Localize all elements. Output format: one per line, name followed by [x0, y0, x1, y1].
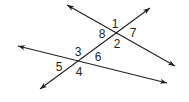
lines-layer [18, 5, 175, 89]
angle-label-2: 2 [114, 37, 121, 51]
angle-label-1: 1 [112, 17, 119, 31]
line-c-segment [18, 46, 167, 83]
arrowhead-icon [168, 60, 175, 66]
angle-label-4: 4 [76, 65, 83, 79]
arrowhead-icon [143, 8, 150, 14]
transversal [40, 8, 150, 89]
angle-label-8: 8 [99, 27, 106, 41]
angle-diagram: 17823654 [0, 0, 189, 102]
angle-label-7: 7 [130, 26, 137, 40]
arrowhead-icon [40, 83, 47, 89]
angle-label-6: 6 [95, 50, 102, 64]
angle-label-3: 3 [75, 45, 82, 59]
angle-label-5: 5 [56, 60, 63, 74]
arrowhead-icon [67, 5, 74, 11]
transversal-segment [40, 8, 150, 89]
